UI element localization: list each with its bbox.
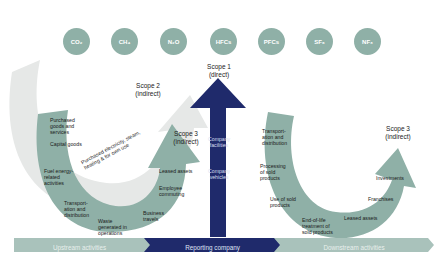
upstream-item: Business travels	[143, 210, 173, 222]
upstream-item: Employee commuting	[159, 185, 191, 197]
upstream-item: Leased assets	[159, 168, 195, 174]
gas-hfcs: HFCs	[210, 28, 237, 55]
downstream-activities-label: Downstream activities	[280, 244, 428, 251]
downstream-item: Franchises	[368, 196, 404, 202]
downstream-item: Processing of sold products	[260, 163, 290, 181]
gas-n2o: N₂O	[160, 28, 187, 55]
scope3-downstream-title: Scope 3 (indirect)	[378, 125, 418, 141]
gas-sf6: SF₆	[306, 28, 333, 55]
gas-co2: CO₂	[63, 28, 90, 55]
scope3-upstream-title: Scope 3 (indirect)	[166, 130, 206, 146]
upstream-item: Transport-ation and distribution	[64, 200, 94, 218]
upstream-item: Waste generated in operations	[98, 218, 130, 236]
downstream-item: Transport-ation and distribution	[262, 128, 290, 146]
downstream-item: Use of sold products	[270, 196, 300, 208]
upstream-activities-label: Upstream activities	[14, 244, 145, 251]
scope1-arrow	[190, 78, 246, 237]
downstream-item: Leased assets	[344, 215, 384, 221]
company-item: Company vehicles	[208, 168, 230, 180]
reporting-company-label: Reporting company	[150, 244, 275, 251]
gas-nf3: NF₃	[354, 28, 381, 55]
company-item: Company facilities	[208, 136, 230, 148]
downstream-item: Investments	[376, 175, 416, 181]
scope2-title: Scope 2 (indirect)	[128, 82, 168, 98]
gas-pfcs: PFCs	[258, 28, 285, 55]
gas-ch4: CH₄	[111, 28, 138, 55]
upstream-item: Fuel energy-related activities	[44, 168, 78, 186]
scope1-title: Scope 1 (direct)	[200, 63, 238, 79]
upstream-item: Purchased goods and services	[50, 117, 82, 135]
downstream-item: End-of-life treatment of sold products	[302, 217, 336, 235]
upstream-item: Capital goods	[50, 141, 82, 147]
